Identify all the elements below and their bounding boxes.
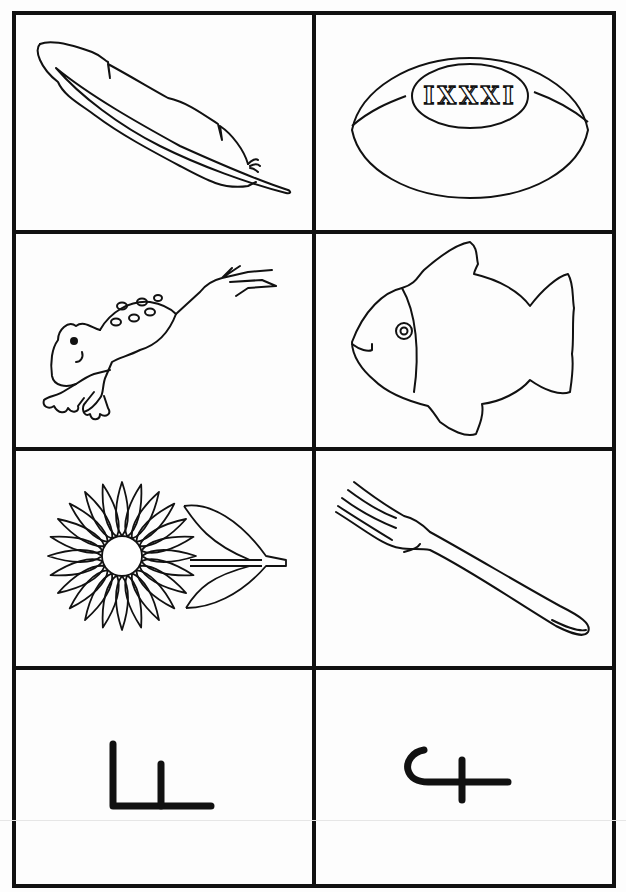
card-rugby-ball: rugby ball IXXXI bbox=[316, 15, 616, 230]
card-fish: fish bbox=[316, 234, 616, 447]
flower-icon bbox=[16, 451, 312, 666]
ball-text: IXXXI bbox=[423, 81, 516, 110]
fork-icon bbox=[316, 451, 616, 666]
feather-icon bbox=[16, 15, 312, 230]
worksheet-page: feather rugby ball IXXXI frog bbox=[0, 0, 626, 892]
fish-icon bbox=[316, 234, 616, 447]
card-frog: frog bbox=[16, 234, 312, 447]
card-glyph-l: letter glyph (L with inner stroke) bbox=[16, 670, 312, 884]
frog-icon bbox=[16, 234, 312, 447]
card-fork: fork bbox=[316, 451, 616, 666]
glyph-hook-cross-icon bbox=[316, 670, 616, 884]
glyph-l-icon bbox=[16, 670, 312, 884]
card-flower: flower bbox=[16, 451, 312, 666]
rugby-ball-icon: IXXXI bbox=[316, 15, 616, 230]
card-feather: feather bbox=[16, 15, 312, 230]
card-glyph-hook-cross: letter glyph (hook with cross) bbox=[316, 670, 616, 884]
